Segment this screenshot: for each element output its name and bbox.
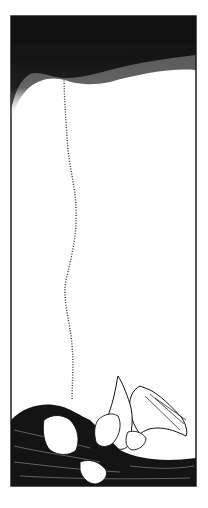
- illustration: [0, 0, 208, 508]
